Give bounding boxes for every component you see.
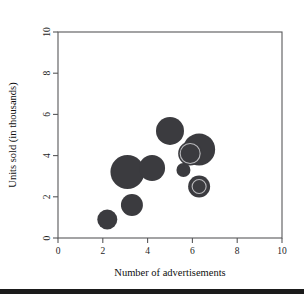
y-tick-label: 8 (42, 71, 52, 76)
footer-bar (0, 289, 304, 294)
bubble-series (97, 117, 215, 230)
y-tick-label: 4 (42, 153, 52, 158)
bubble-marker (156, 117, 184, 145)
bubble-chart-figure: 0246810 0246810 Number of advertisements… (0, 0, 304, 294)
x-axis-ticks: 0246810 (56, 238, 287, 256)
x-tick-label: 4 (145, 246, 150, 256)
y-tick-label: 2 (42, 194, 52, 199)
x-tick-label: 0 (56, 246, 61, 256)
y-tick-label: 10 (42, 27, 52, 37)
x-axis-title: Number of advertisements (114, 267, 225, 278)
y-axis-title: Units sold (in thousands) (7, 82, 19, 188)
x-tick-label: 6 (190, 246, 195, 256)
y-tick-label: 6 (42, 112, 52, 117)
bubble-marker (121, 194, 143, 216)
x-tick-label: 8 (235, 246, 240, 256)
bubble-marker (139, 155, 165, 181)
x-tick-label: 10 (277, 246, 287, 256)
bubble-marker (97, 209, 117, 229)
y-axis-ticks: 0246810 (42, 27, 58, 240)
bubble-marker (178, 142, 202, 166)
chart-canvas: 0246810 0246810 Number of advertisements… (0, 0, 304, 294)
x-tick-label: 2 (100, 246, 105, 256)
bubble-marker (188, 176, 210, 198)
y-tick-label: 0 (42, 235, 52, 240)
bubble-marker (110, 155, 144, 189)
